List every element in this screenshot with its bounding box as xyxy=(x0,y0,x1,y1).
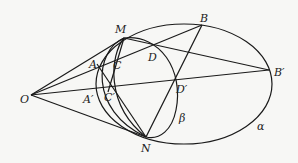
label-A: A xyxy=(88,58,97,71)
arc-left-2 xyxy=(114,38,146,137)
label-C: C xyxy=(113,59,122,72)
geometry-diagram: O M N A C A′ C′ B B′ D D′ α β xyxy=(0,0,298,163)
label-D-prime: D′ xyxy=(175,83,188,96)
line-BN xyxy=(146,25,202,137)
label-B: B xyxy=(199,12,208,25)
label-C-prime: C′ xyxy=(104,91,115,104)
label-D: D xyxy=(147,51,157,64)
label-B-prime: B′ xyxy=(273,66,285,79)
label-alpha: α xyxy=(257,120,265,133)
diagram-canvas: O M N A C A′ C′ B B′ D D′ α β xyxy=(0,0,298,163)
label-O: O xyxy=(20,93,29,106)
label-A-prime: A′ xyxy=(82,93,94,106)
label-N: N xyxy=(140,142,151,155)
label-beta: β xyxy=(178,112,185,125)
label-M: M xyxy=(114,23,127,36)
